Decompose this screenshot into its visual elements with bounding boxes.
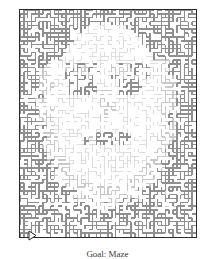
maze-grid xyxy=(19,9,197,238)
entrance-arrow-icon xyxy=(28,230,37,241)
figure-caption: Goal: Maze xyxy=(0,249,215,259)
maze-page: Goal: Maze xyxy=(0,0,215,259)
maze-figure xyxy=(19,9,197,238)
